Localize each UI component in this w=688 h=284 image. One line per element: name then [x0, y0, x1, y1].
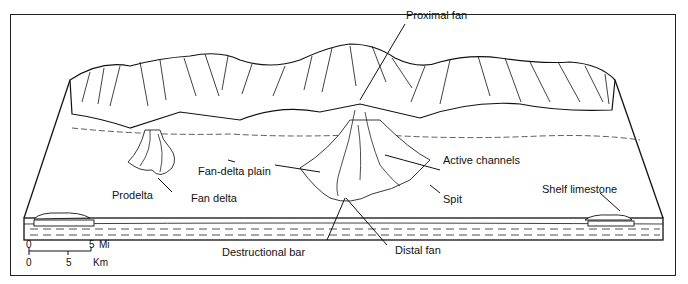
label-proximal-fan: Proximal fan: [406, 10, 467, 21]
label-fan-delta-plain: Fan-delta plain: [198, 166, 271, 177]
label-active-channels: Active channels: [443, 155, 520, 166]
scale-mi-start: 0: [26, 240, 32, 250]
label-destructional-bar: Destructional bar: [222, 247, 305, 258]
label-spit: Spit: [443, 194, 462, 205]
label-shelf-limestone: Shelf limestone: [542, 184, 617, 195]
scale-km-mid: 5: [66, 258, 72, 268]
label-fan-delta: Fan delta: [191, 193, 237, 204]
scale-mi-unit: Mi: [99, 240, 110, 250]
label-prodelta: Prodelta: [112, 190, 153, 201]
scale-km-start: 0: [26, 258, 32, 268]
scale-km-unit: Km: [93, 258, 108, 268]
label-distal-fan: Distal fan: [395, 245, 441, 256]
scale-mi-end: 5: [89, 240, 95, 250]
